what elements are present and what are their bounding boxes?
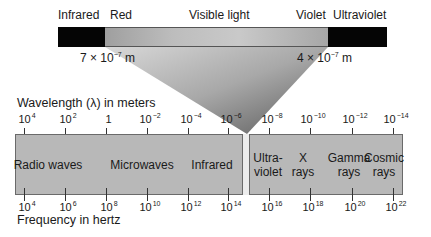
frequency-tick-label: 1014	[220, 200, 241, 213]
bar-tick-mark	[269, 188, 270, 194]
band-label: Infrared	[191, 158, 232, 172]
wavelength-tick-label: 10−6	[220, 112, 241, 125]
bar-tick-mark	[228, 188, 229, 194]
violet-wavelength-limit: 4 × 10−7 m	[297, 51, 352, 65]
frequency-axis-title: Frequency in hertz	[17, 213, 121, 227]
band-label: Radio waves	[14, 158, 83, 172]
wavelength-axis-title: Wavelength (λ) in meters	[17, 96, 155, 110]
bar-tick-mark	[310, 188, 311, 194]
red-wavelength-limit: 7 × 10−7 m	[80, 51, 135, 65]
frequency-tick-label: 1010	[139, 200, 160, 213]
wavelength-tick-label: 102	[59, 112, 76, 125]
wavelength-tick-label: 10−8	[261, 112, 282, 125]
band-label: Cosmicrays	[364, 151, 404, 179]
bar-tick-mark	[393, 188, 394, 194]
frequency-tick-label: 1018	[302, 200, 323, 213]
frequency-tick-label: 1022	[385, 200, 406, 213]
band-label: Ultra-violet	[253, 151, 282, 179]
wavelength-tick-label: 10−4	[180, 112, 201, 125]
wavelength-tick-label: 10−14	[383, 112, 408, 125]
bar-tick-mark	[147, 188, 148, 194]
band-label: Xrays	[292, 151, 315, 179]
bar-tick-mark	[24, 188, 25, 194]
wavelength-tick-label: 1	[105, 112, 112, 125]
wavelength-tick-label: 10−12	[342, 112, 367, 125]
wavelength-tick-label: 10−10	[300, 112, 325, 125]
wavelength-tick-label: 10−2	[139, 112, 160, 125]
frequency-tick-label: 106	[59, 200, 76, 213]
band-label: Microwaves	[110, 158, 173, 172]
frequency-tick-label: 1012	[180, 200, 201, 213]
bar-tick-mark	[188, 188, 189, 194]
frequency-tick-label: 104	[18, 200, 35, 213]
bar-tick-mark	[106, 188, 107, 194]
bar-tick-mark	[352, 188, 353, 194]
frequency-tick-label: 108	[100, 200, 117, 213]
bar-tick-mark	[65, 188, 66, 194]
frequency-tick-label: 1020	[344, 200, 365, 213]
frequency-tick-label: 1016	[261, 200, 282, 213]
visible-light-strip	[242, 134, 250, 195]
wavelength-tick-label: 104	[18, 112, 35, 125]
